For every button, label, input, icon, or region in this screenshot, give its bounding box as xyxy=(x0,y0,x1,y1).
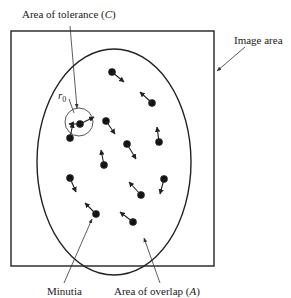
minutia-arrow xyxy=(106,121,115,134)
minutia-arrow xyxy=(85,203,96,214)
minutiae-group xyxy=(67,69,167,225)
minutia-arrow xyxy=(129,182,141,195)
image-area-label: Image area xyxy=(234,34,283,46)
image-area-pointer xyxy=(217,47,245,71)
pointer-lines xyxy=(64,26,245,283)
radius-label: r0 xyxy=(58,89,66,104)
tolerance-label: Area of tolerance (C) xyxy=(22,8,116,21)
minutia-arrow xyxy=(112,72,124,82)
minutia-pointer xyxy=(64,219,92,283)
minutiae-overlap-diagram: Area of tolerance (C) r0 Image area Minu… xyxy=(0,0,291,298)
minutia-arrow xyxy=(80,117,94,124)
overlap-label: Area of overlap (A) xyxy=(114,285,200,298)
minutia-arrow xyxy=(127,144,136,159)
minutia-arrow xyxy=(140,92,152,103)
tolerance-pointer xyxy=(70,26,77,108)
minutia-label: Minutia xyxy=(47,285,82,297)
minutia-arrow xyxy=(120,212,133,222)
image-area-rect xyxy=(11,31,214,266)
overlap-ellipse xyxy=(37,49,191,275)
overlap-pointer xyxy=(144,238,160,283)
